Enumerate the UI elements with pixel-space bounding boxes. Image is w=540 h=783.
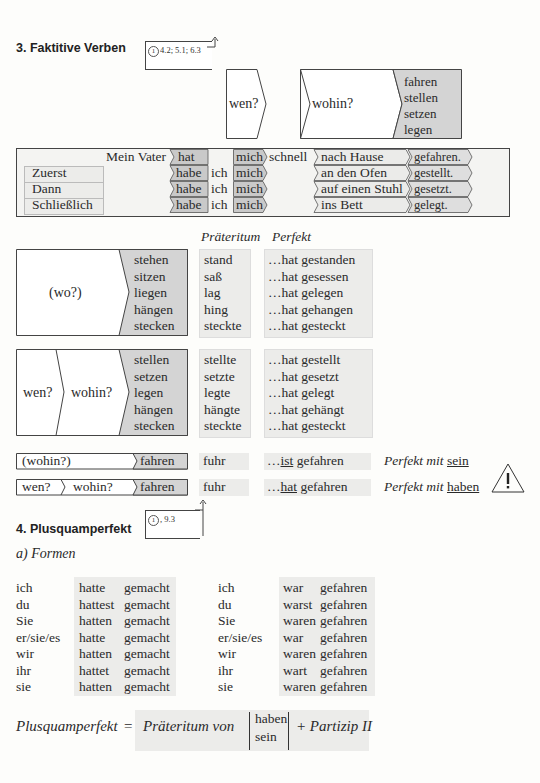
sein-pronoun-list: ich du Sie er/sie/es wir ihr sie bbox=[218, 580, 262, 696]
book-circle-icon: 1 bbox=[148, 46, 159, 57]
pronoun-text: ich bbox=[211, 165, 228, 181]
praeteritum-header: Präteritum bbox=[201, 229, 260, 245]
perfekt-item: …hat gehängt bbox=[268, 402, 372, 419]
verb-item: stecken bbox=[134, 418, 174, 435]
aux-text: habe bbox=[176, 165, 201, 181]
praeteritum-item: lag bbox=[204, 285, 250, 302]
perfekt-item: …hat gelegt bbox=[268, 385, 372, 402]
praeteritum-item: hing bbox=[204, 302, 250, 319]
section-3-title: 3. Faktitive Verben bbox=[16, 41, 126, 55]
praeteritum-item: legte bbox=[204, 385, 250, 402]
object-text: mich bbox=[236, 165, 263, 181]
participle: gefahren bbox=[320, 580, 367, 597]
aux-text: habe bbox=[176, 181, 201, 197]
verb-item: stecken bbox=[134, 318, 174, 335]
pronoun: ihr bbox=[218, 663, 262, 680]
object-text: mich bbox=[236, 197, 263, 213]
formula-praeteritum-von: Präteritum von bbox=[143, 718, 234, 734]
wohin-praeteritum-column: stellte setzte legte hängte steckte bbox=[199, 349, 251, 438]
participle: gefahren bbox=[320, 646, 367, 663]
subject-text: Mein Vater bbox=[106, 149, 166, 165]
ellipsis: … bbox=[267, 479, 281, 494]
pronoun: Sie bbox=[16, 613, 60, 630]
pronoun: er/sie/es bbox=[218, 630, 262, 647]
object-text: mich bbox=[236, 181, 263, 197]
formula-lhs: Plusquamperfekt bbox=[16, 718, 118, 734]
pronoun: er/sie/es bbox=[16, 630, 60, 647]
pronoun: wir bbox=[16, 646, 60, 663]
participle: gefahren bbox=[320, 597, 367, 614]
wohin-label-2: wohin? bbox=[71, 385, 112, 401]
reference-arrow-icon bbox=[195, 498, 211, 516]
pronoun: wir bbox=[218, 646, 262, 663]
aux-text: hat bbox=[178, 149, 195, 165]
wen-label-2: wen? bbox=[23, 385, 53, 401]
perfekt-item: …hat gehangen bbox=[268, 302, 372, 319]
fahren-perfekt-haben: …hat gefahren bbox=[267, 479, 348, 495]
formula-divider-right bbox=[288, 712, 289, 750]
participle-text: gestellt. bbox=[414, 165, 453, 181]
haben-participle-list: gemacht gemacht gemacht gemacht gemacht … bbox=[124, 580, 170, 696]
participle: gefahren bbox=[320, 663, 367, 680]
reference-text: , 9.3 bbox=[160, 514, 175, 524]
place-text: auf einen Stuhl bbox=[321, 181, 403, 197]
participle: gemacht bbox=[124, 613, 170, 630]
subtitle-formen: a) Formen bbox=[16, 546, 76, 562]
fahren-verb: fahren bbox=[140, 479, 174, 495]
participle-text: gelegt. bbox=[414, 197, 448, 213]
perfekt-item: …hat gesteckt bbox=[268, 418, 372, 435]
aux-form: hatte bbox=[79, 580, 114, 597]
section-4-title: 4. Plusquamperfekt bbox=[16, 522, 131, 536]
participle-text: gefahren. bbox=[414, 149, 461, 165]
note-aux-sein: sein bbox=[447, 453, 469, 468]
aux-form: hatte bbox=[79, 630, 114, 647]
reference-text: 4.2; 5.1; 6.3 bbox=[160, 45, 201, 55]
wo-perfekt-column: …hat gestanden …hat gesessen …hat gelege… bbox=[264, 249, 373, 338]
participle: gemacht bbox=[124, 679, 170, 696]
reference-box: 14.2; 5.1; 6.3 bbox=[145, 41, 212, 70]
note-text: Perfekt mit bbox=[384, 453, 447, 468]
perfekt-item: …hat gestanden bbox=[268, 252, 372, 269]
verb-item: setzen bbox=[404, 106, 438, 122]
place-text: ins Bett bbox=[321, 197, 363, 213]
pronoun-text: ich bbox=[211, 181, 228, 197]
warning-icon bbox=[491, 463, 525, 493]
place-text: an den Ofen bbox=[321, 165, 387, 181]
note-text: Perfekt mit bbox=[384, 479, 447, 494]
participle-text: gesetzt. bbox=[414, 181, 452, 197]
perfekt-item: …hat gesetzt bbox=[268, 369, 372, 386]
perfekt-item: …hat gesessen bbox=[268, 269, 372, 286]
verb-item: legen bbox=[134, 385, 174, 402]
aux-form: hatten bbox=[79, 613, 114, 630]
aux-form: hatten bbox=[79, 646, 114, 663]
participle: gemacht bbox=[124, 630, 170, 647]
participle: gefahren bbox=[297, 479, 348, 494]
praeteritum-item: hängte bbox=[204, 402, 250, 419]
verb-item: legen bbox=[404, 122, 438, 138]
book-circle-icon: 1 bbox=[148, 515, 159, 526]
participle: gefahren bbox=[293, 453, 344, 468]
formula-divider-left bbox=[249, 712, 250, 750]
pronoun: ich bbox=[16, 580, 60, 597]
reference-arrow-icon bbox=[207, 35, 223, 53]
note-aux-haben: haben bbox=[447, 479, 479, 494]
verb-item: sitzen bbox=[134, 269, 174, 286]
pronoun: ich bbox=[218, 580, 262, 597]
participle: gefahren bbox=[320, 613, 367, 630]
pronoun-text: ich bbox=[211, 197, 228, 213]
formula-equals: = bbox=[124, 718, 132, 734]
wo-question: (wo?) bbox=[49, 285, 82, 301]
verb-item: liegen bbox=[134, 285, 174, 302]
wen-label: wen? bbox=[229, 96, 259, 112]
aux-text: habe bbox=[176, 197, 201, 213]
aux-form: warst bbox=[283, 597, 316, 614]
note-perfekt-haben: Perfekt mit haben bbox=[384, 479, 479, 495]
aux-hat: hat bbox=[281, 479, 298, 494]
wohin-paren-label: (wohin?) bbox=[22, 453, 71, 469]
adverb-text: Schließlich bbox=[32, 197, 93, 213]
praeteritum-item: stand bbox=[204, 252, 250, 269]
pronoun: Sie bbox=[218, 613, 262, 630]
haben-pronoun-list: ich du Sie er/sie/es wir ihr sie bbox=[16, 580, 60, 696]
verb-item: fahren bbox=[404, 74, 438, 90]
perfekt-item: …hat gestellt bbox=[268, 352, 372, 369]
